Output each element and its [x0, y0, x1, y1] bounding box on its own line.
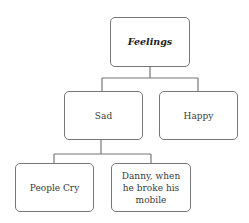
node-happy: Happy	[159, 91, 238, 140]
node-label: People Cry	[30, 182, 80, 194]
node-label: Feelings	[128, 36, 172, 48]
node-label: Sad	[95, 110, 112, 122]
node-label: Happy	[184, 110, 214, 122]
node-sad: Sad	[64, 91, 143, 140]
node-label: Danny, when he broke his mobile	[120, 170, 182, 206]
node-danny: Danny, when he broke his mobile	[111, 163, 191, 212]
node-people-cry: People Cry	[15, 163, 94, 212]
node-feelings: Feelings	[110, 17, 190, 67]
